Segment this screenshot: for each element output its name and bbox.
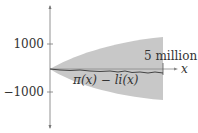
x-axis-label: x	[181, 62, 188, 76]
y-axis-arrow-down	[49, 125, 52, 129]
curve-label: π(x) − li(x)	[72, 73, 139, 87]
y-axis-arrow-up	[49, 5, 52, 9]
x-annotation: 5 million	[144, 49, 197, 63]
ytick-label-1000: 1000	[13, 37, 44, 51]
chart: 1000 −1000 5 million x π(x) − li(x)	[0, 0, 198, 133]
ytick-label-neg1000: −1000	[3, 85, 44, 99]
error-band	[50, 37, 163, 100]
x-axis-arrow	[174, 68, 178, 71]
